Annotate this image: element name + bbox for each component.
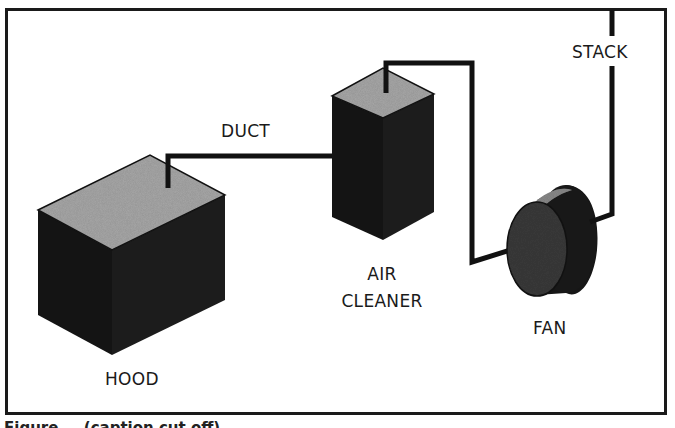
air-cleaner-shape bbox=[332, 68, 434, 240]
hood-shape bbox=[38, 155, 225, 355]
label-air-cleaner-line1: AIR bbox=[367, 266, 396, 283]
figure-caption: Figure — (caption cut off) bbox=[4, 421, 220, 428]
label-air-cleaner-line2: CLEANER bbox=[341, 293, 422, 310]
label-stack: STACK bbox=[572, 44, 628, 61]
label-hood: HOOD bbox=[105, 371, 159, 388]
stack-line-lower bbox=[590, 66, 612, 222]
ventilation-diagram bbox=[0, 0, 675, 428]
fan-shape bbox=[507, 185, 598, 296]
label-duct: DUCT bbox=[221, 123, 270, 140]
label-fan: FAN bbox=[533, 320, 566, 337]
